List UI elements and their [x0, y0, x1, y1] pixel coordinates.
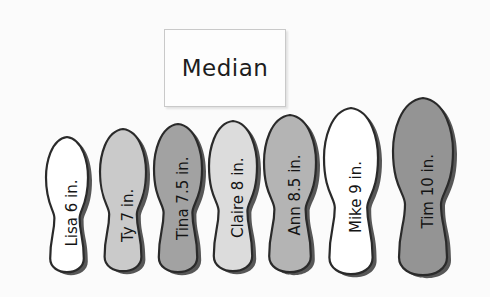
median-callout-box: Median — [164, 29, 286, 107]
diagram-canvas: Lisa 6 in.Ty 7 in.Tina 7.5 in.Claire 8 i… — [0, 0, 490, 297]
footprint-mike: Mike 9 in. — [324, 108, 382, 277]
footprint-label: Mike 9 in. — [347, 161, 365, 233]
footprint-label: Ann 8.5 in. — [286, 154, 304, 235]
footprint-label: Claire 8 in. — [229, 157, 247, 238]
footprint-claire: Claire 8 in. — [209, 121, 261, 274]
footprint-tina: Tina 7.5 in. — [154, 124, 206, 275]
footprint-label: Tim 10 in. — [419, 154, 437, 230]
footprint-label: Ty 7 in. — [119, 189, 137, 243]
footprint-tim: Tim 10 in. — [393, 98, 457, 278]
footprint-label: Tina 7.5 in. — [174, 157, 192, 241]
footprint-label: Lisa 6 in. — [63, 179, 81, 246]
median-callout-label: Median — [182, 55, 269, 81]
footprint-lisa: Lisa 6 in. — [46, 137, 92, 275]
footprint-ty: Ty 7 in. — [100, 129, 150, 274]
footprint-ann: Ann 8.5 in. — [264, 115, 320, 275]
